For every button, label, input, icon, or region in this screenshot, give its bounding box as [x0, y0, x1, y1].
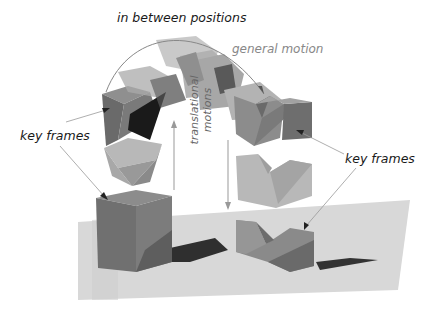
translational-label-line1: translational — [188, 50, 201, 170]
general-motion-label: general motion — [232, 42, 323, 56]
in-between-positions-label: in between positions — [117, 10, 246, 25]
translational-arrow-down-head — [225, 202, 231, 210]
translational-label-line2: motions — [201, 50, 214, 170]
keyframe-left-leader-bottom — [60, 146, 104, 196]
right-translated-shape — [236, 154, 312, 208]
keyframe-right-leader-top — [300, 132, 344, 154]
key-frames-label-right: key frames — [345, 151, 415, 166]
key-frames-label-left: key frames — [20, 128, 90, 143]
animation-keyframes-diagram: in between positions general motion key … — [0, 0, 428, 311]
left-keyframe-cube — [96, 190, 172, 272]
right-top-keyframe — [234, 96, 312, 146]
translational-motions-label: translational motions — [188, 50, 214, 170]
keyframe-left-leader-top — [66, 110, 106, 122]
left-translated-shape — [104, 138, 162, 186]
translational-arrow-up-head — [171, 120, 177, 128]
